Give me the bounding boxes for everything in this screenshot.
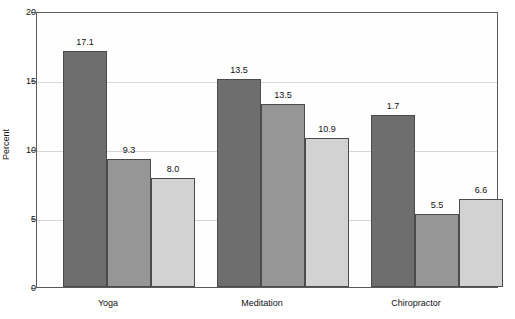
bar-value-meditation-non-hispanic-white: 13.5	[217, 66, 261, 75]
bar-value-chiropractor-non-hispanic-white: 1.7	[371, 102, 415, 111]
bar-meditation-hispanic	[305, 138, 349, 287]
bar-value-yoga-non-hispanic-white: 17.1	[63, 38, 107, 47]
bar-yoga-hispanic	[151, 178, 195, 287]
bar-chiropractor-non-hispanic-white	[371, 115, 415, 287]
bar-meditation-non-hispanic-white	[217, 79, 261, 287]
bar-chiropractor-hispanic	[459, 199, 503, 287]
bar-yoga-non-hispanic-white	[63, 51, 107, 287]
y-axis-title: Percent	[2, 110, 11, 180]
bar-chart: Non-Hispanic white Non-Hispanic black Hi…	[0, 0, 515, 319]
bar-chiropractor-non-hispanic-black	[415, 214, 459, 287]
bar-value-chiropractor-hispanic: 6.6	[459, 186, 503, 195]
y-axis: Percent 20 15 10 5 0	[0, 12, 36, 288]
bar-meditation-non-hispanic-black	[261, 104, 305, 287]
y-tick-mark-0	[31, 288, 36, 289]
bar-value-yoga-non-hispanic-black: 9.3	[107, 146, 151, 155]
x-cat-label-meditation: Meditation	[216, 299, 308, 308]
bar-value-meditation-non-hispanic-black: 13.5	[261, 91, 305, 100]
bar-value-meditation-hispanic: 10.9	[305, 125, 349, 134]
plot-area: 17.1 9.3 8.0 13.5 13.5 10.9 1.7 5.5 6.6	[36, 12, 498, 288]
x-cat-label-yoga: Yoga	[62, 299, 154, 308]
bar-value-yoga-hispanic: 8.0	[151, 165, 195, 174]
x-cat-label-chiropractor: Chiropractor	[370, 299, 462, 308]
bar-value-chiropractor-non-hispanic-black: 5.5	[415, 201, 459, 210]
bar-yoga-non-hispanic-black	[107, 159, 151, 287]
